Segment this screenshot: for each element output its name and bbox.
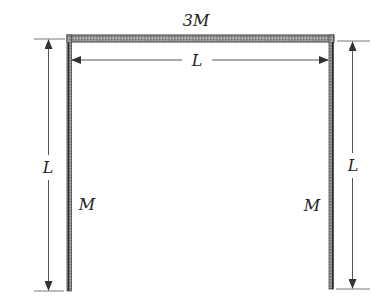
right-leg (329, 35, 334, 289)
right-length-label: L (348, 158, 359, 174)
top-beam (67, 35, 334, 42)
top-beam-mass-label: 3M (183, 13, 210, 29)
left-leg-mass-label: M (79, 197, 95, 213)
horizontal-length-label: L (189, 53, 206, 69)
left-length-label: L (43, 160, 54, 176)
portal-frame-diagram: 3M L L M L M (0, 0, 391, 306)
left-leg (67, 35, 72, 291)
right-leg-mass-label: M (304, 198, 320, 214)
